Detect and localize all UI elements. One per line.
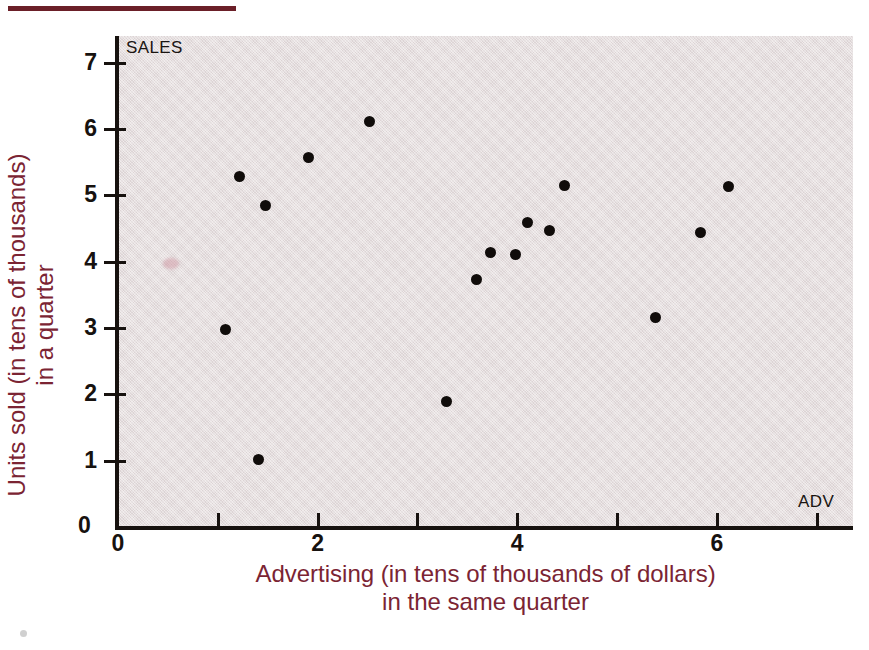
- y-axis-tick-4: [104, 261, 126, 264]
- y-axis-tick-label-6: 6: [71, 117, 97, 140]
- paper-smudge-artifact: [163, 258, 179, 269]
- data-point: [471, 274, 482, 285]
- data-point: [510, 249, 521, 260]
- x-axis-tick-3: [416, 513, 419, 530]
- x-axis-tick-label-2: 2: [298, 532, 338, 555]
- data-point: [260, 200, 271, 211]
- y-axis-tick-3: [104, 327, 126, 330]
- data-point: [364, 116, 375, 127]
- data-point: [544, 225, 555, 236]
- data-point: [220, 324, 231, 335]
- y-axis-title: Units sold (in tens of thousands) in a q…: [0, 0, 62, 650]
- x-axis-tick-6: [716, 513, 719, 530]
- data-point: [485, 247, 496, 258]
- y-axis-tick-1: [104, 460, 126, 463]
- x-axis-line: [115, 526, 853, 530]
- paper-speck-artifact: [20, 630, 27, 637]
- plot-area: [118, 36, 853, 527]
- y-axis-tick-5: [104, 194, 126, 197]
- x-axis-tick-2: [317, 513, 320, 530]
- y-axis-title-line1: Units sold (in tens of thousands): [3, 154, 31, 497]
- x-axis-tick-label-4: 4: [497, 532, 537, 555]
- y-axis-title-line2: in a quarter: [31, 264, 59, 385]
- data-point: [303, 152, 314, 163]
- scatterplot-figure: 1234567 0246 0 SALES ADV Units sold (in …: [0, 0, 869, 650]
- y-axis-tick-label-5: 5: [71, 183, 97, 206]
- x-axis-tick-1: [217, 513, 220, 530]
- y-axis-tick-label-7: 7: [71, 51, 97, 74]
- x-axis-tick-5: [616, 513, 619, 530]
- data-point: [522, 217, 533, 228]
- y-axis-line: [115, 36, 119, 530]
- x-axis-inplot-name: ADV: [798, 492, 834, 512]
- y-axis-origin-label: 0: [78, 514, 91, 537]
- x-axis-title-line1: Advertising (in tens of thousands of dol…: [255, 560, 715, 587]
- y-axis-tick-label-3: 3: [71, 316, 97, 339]
- x-axis-tick-label-6: 6: [697, 532, 737, 555]
- x-axis-title-line2: in the same quarter: [118, 588, 853, 616]
- y-axis-tick-2: [104, 393, 126, 396]
- y-axis-tick-label-4: 4: [71, 250, 97, 273]
- x-axis-tick-label-0: 0: [98, 532, 138, 555]
- y-axis-tick-6: [104, 128, 126, 131]
- y-axis-tick-7: [104, 62, 126, 65]
- data-point: [234, 171, 245, 182]
- y-axis-tick-label-2: 2: [71, 382, 97, 405]
- y-axis-tick-label-1: 1: [71, 449, 97, 472]
- data-point: [559, 180, 570, 191]
- y-axis-inplot-name: SALES: [126, 38, 183, 58]
- x-axis-title: Advertising (in tens of thousands of dol…: [118, 560, 853, 617]
- data-point: [441, 396, 452, 407]
- x-axis-tick-7: [816, 513, 819, 530]
- x-axis-tick-4: [516, 513, 519, 530]
